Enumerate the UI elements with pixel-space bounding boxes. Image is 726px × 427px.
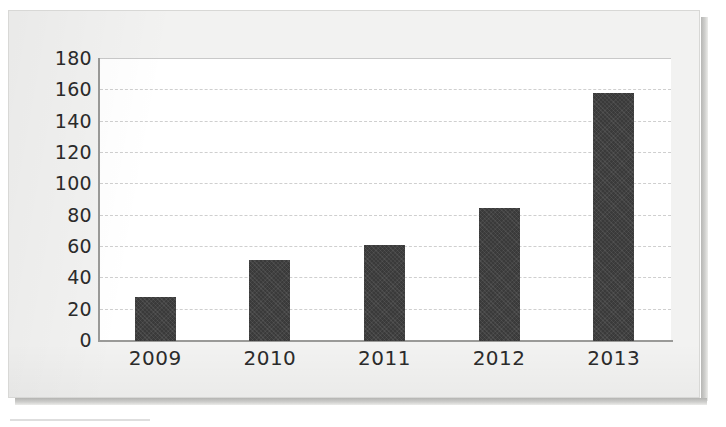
caption-rule [10, 419, 150, 421]
y-tick-label-20: 20 [16, 300, 92, 319]
y-tick-label-60: 60 [16, 237, 92, 256]
figure-panel: 020406080100120140160180 200920102011201… [8, 10, 700, 398]
y-tick-label-180: 180 [16, 49, 92, 68]
y-tick-label-80: 80 [16, 206, 92, 225]
bar-2011 [364, 245, 405, 341]
y-tick-label-40: 40 [16, 268, 92, 287]
bar-chart: 020406080100120140160180 200920102011201… [9, 11, 701, 399]
x-tick-label-2012: 2012 [459, 348, 539, 368]
bar-2009 [135, 297, 176, 341]
y-tick-label-100: 100 [16, 174, 92, 193]
y-tick-label-140: 140 [16, 112, 92, 131]
y-tick-label-160: 160 [16, 80, 92, 99]
gridline-180 [100, 58, 671, 60]
gridline-80 [100, 215, 671, 217]
y-axis-tick-labels: 020406080100120140160180 [12, 11, 92, 399]
x-tick-label-2010: 2010 [230, 348, 310, 368]
bar-2012 [479, 208, 520, 341]
scanned-page: 020406080100120140160180 200920102011201… [0, 0, 726, 427]
x-tick-label-2009: 2009 [115, 348, 195, 368]
x-tick-label-2011: 2011 [345, 348, 425, 368]
y-axis-line [98, 58, 100, 342]
x-tick-label-2013: 2013 [574, 348, 654, 368]
y-tick-label-0: 0 [16, 331, 92, 350]
panel-shadow-bottom [15, 398, 707, 405]
gridline-100 [100, 183, 671, 185]
gridline-120 [100, 152, 671, 154]
panel-shadow-right [701, 17, 708, 401]
bar-2010 [249, 260, 290, 341]
y-tick-label-120: 120 [16, 143, 92, 162]
bar-2013 [593, 93, 634, 341]
gridline-140 [100, 121, 671, 123]
gridline-160 [100, 89, 671, 91]
